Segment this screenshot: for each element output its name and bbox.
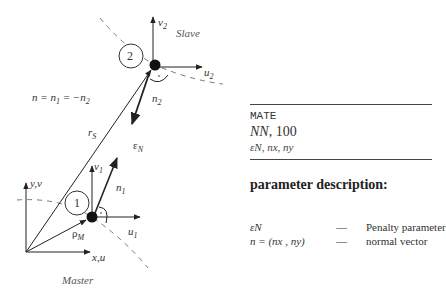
command-syntax-box: MATE NN, 100 εN, nx, ny xyxy=(250,104,432,160)
parameter-dash: — xyxy=(336,221,366,233)
global-x-label: x,u xyxy=(92,252,105,263)
slave-contact-point xyxy=(150,60,161,71)
n2-vector xyxy=(132,74,149,124)
slave-v-label: v2 xyxy=(158,17,167,31)
parameter-row: n = (nx , ny)—normal vector xyxy=(250,235,427,247)
parameter-symbol: n = (nx , ny) xyxy=(250,235,336,247)
master-u-label: u1 xyxy=(128,226,138,240)
master-contact-point xyxy=(87,212,98,223)
slave-n-label: n2 xyxy=(152,93,162,107)
top-rule xyxy=(250,104,432,105)
master-label: Master xyxy=(62,275,93,286)
master-node-number: 1 xyxy=(74,197,80,209)
slave-node-number: 2 xyxy=(127,50,133,62)
rs-label: rS xyxy=(88,127,96,141)
slave-u-label: u2 xyxy=(204,67,214,81)
parameter-text: normal vector xyxy=(366,235,427,247)
command-line-3: εN, nx, ny xyxy=(250,140,432,154)
master-v-label: v1 xyxy=(94,161,103,175)
parameter-dash: — xyxy=(336,235,366,247)
parameter-text: Penalty parameter xyxy=(366,221,446,233)
slave-label: Slave xyxy=(176,28,200,39)
eps-n-label: εN xyxy=(133,140,143,154)
bottom-rule xyxy=(250,159,432,160)
master-n-label: n1 xyxy=(116,182,126,196)
parameter-row: εN—Penalty parameter xyxy=(250,221,446,233)
command-line-2: NN, 100 xyxy=(250,123,432,140)
parameter-symbol: εN xyxy=(250,221,336,233)
parameter-description-heading: parameter description: xyxy=(250,177,388,193)
normal-equation: n = n1 = −n2 xyxy=(32,92,90,106)
master-angle-arc xyxy=(99,207,107,223)
rho-m-label: ρM xyxy=(72,228,84,242)
command-keyword: MATE xyxy=(250,109,432,123)
global-y-label: y,v xyxy=(30,178,42,189)
